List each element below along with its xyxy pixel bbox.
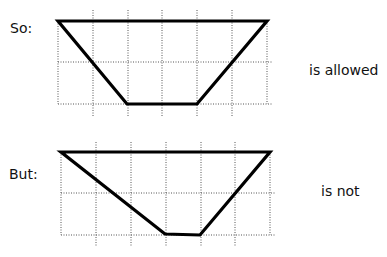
trapezoid-diagrams	[0, 0, 387, 257]
